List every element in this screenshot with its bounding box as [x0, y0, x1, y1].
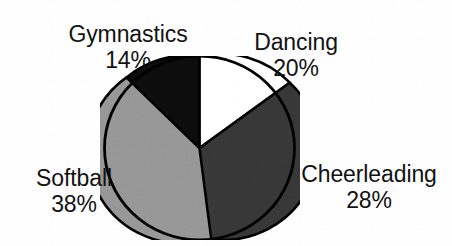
pie-chart-page: Gymnastics 14% Dancing 20% Cheerleading … [0, 0, 452, 246]
pie-label-softball-value: 38% [14, 192, 134, 217]
pie-label-dancing-value: 20% [232, 56, 360, 81]
pie-label-gymnastics: Gymnastics 14% [48, 22, 208, 73]
pie-chart-figure: Gymnastics 14% Dancing 20% Cheerleading … [0, 0, 452, 246]
pie-label-cheerleading: Cheerleading 28% [286, 162, 452, 213]
pie-label-cheerleading-name: Cheerleading [286, 162, 452, 187]
pie-label-cheerleading-value: 28% [286, 188, 452, 213]
pie-label-dancing-name: Dancing [232, 30, 360, 55]
pie-label-gymnastics-value: 14% [48, 48, 208, 73]
pie-label-gymnastics-name: Gymnastics [48, 22, 208, 47]
pie-label-softball: Softball 38% [14, 166, 134, 217]
pie-label-softball-name: Softball [14, 166, 134, 191]
pie-label-dancing: Dancing 20% [232, 30, 360, 81]
